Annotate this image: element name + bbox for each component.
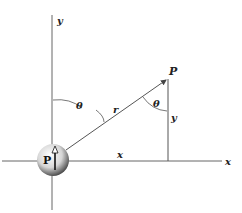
theta-arc-left2 [96,110,104,122]
r-label: r [113,104,119,115]
point-label: P [168,65,178,78]
theta-right-label: θ [153,98,160,109]
dipole-sphere [37,144,69,176]
y-axis-label: y [56,15,64,26]
x-axis-label: x [224,156,232,167]
dipole-field-diagram: y x P θ r θ y x P [0,0,242,213]
dipole-label: P [43,154,51,167]
theta-left-label: θ [76,100,83,111]
y-segment-label: y [170,112,178,123]
diagram-canvas: y x P θ r θ y x P [0,0,242,213]
x-segment-label: x [116,149,124,160]
r-vector [66,80,166,150]
